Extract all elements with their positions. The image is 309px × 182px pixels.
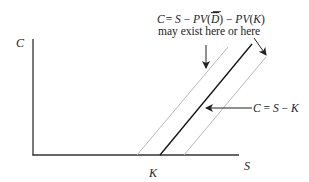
top-note: may exist here or here: [158, 25, 260, 38]
x-axis-label: S: [244, 159, 250, 173]
y-axis-label: C: [16, 36, 25, 50]
lower-bound-left-line: [137, 47, 228, 155]
arrow-diagonal-icon: [254, 38, 266, 55]
option-value-diagram: C S K C= S − PV(D) − PV(K) may exist her…: [0, 0, 309, 182]
mid-formula: C = S − K: [253, 102, 300, 114]
strike-tick-label: K: [148, 166, 158, 180]
